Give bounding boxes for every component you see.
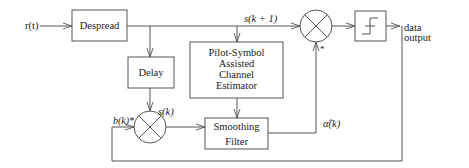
estimator-label-line2: Assisted xyxy=(190,58,283,70)
despread-label: Despread xyxy=(72,20,127,32)
s-k-label: s(k) xyxy=(158,106,174,118)
s-next-label: s(k + 1) xyxy=(244,13,277,25)
input-label: r(t) xyxy=(25,20,38,32)
alpha-hat-label: α̂(k) xyxy=(323,118,340,130)
b-k-conj-label: b(k)* xyxy=(113,115,134,127)
conjugate-mark: * xyxy=(320,44,325,56)
output-label-line2: output xyxy=(404,32,431,44)
smoothing-label-line2: Filter xyxy=(205,136,268,148)
estimator-label-line3: Channel xyxy=(190,69,283,81)
estimator-label-line1: Pilot-Symbol xyxy=(190,47,283,59)
delay-label: Delay xyxy=(128,67,174,79)
estimator-label-line4: Estimator xyxy=(190,80,283,92)
smoothing-label-line1: Smoothing xyxy=(205,121,268,133)
